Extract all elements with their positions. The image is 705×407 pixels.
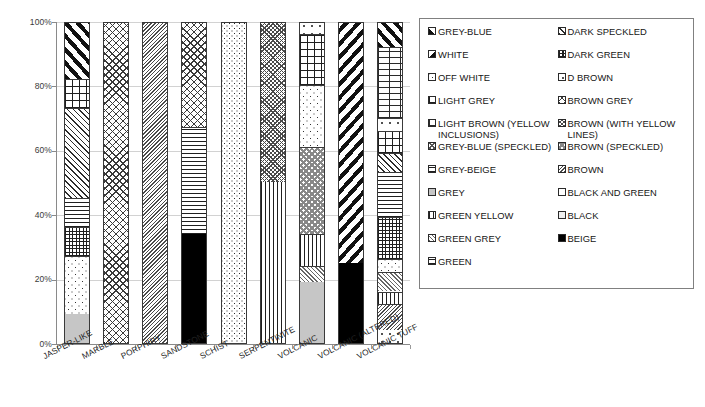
bar-volcanic-altered[interactable] <box>338 22 364 344</box>
legend-item-black-and-green[interactable]: BLACK AND GREEN <box>558 187 688 198</box>
bar-segment[interactable] <box>300 147 324 234</box>
bar-segment[interactable] <box>378 172 402 217</box>
legend-row-spacer <box>428 153 687 164</box>
bar-segment[interactable] <box>300 34 324 86</box>
bar-segment[interactable] <box>378 217 402 259</box>
legend-row-spacer <box>428 199 687 210</box>
bar-marble[interactable] <box>103 22 129 344</box>
bar-porphiry[interactable] <box>142 22 168 344</box>
bar-segment[interactable] <box>261 182 285 343</box>
legend-swatch-icon <box>428 257 436 265</box>
bar-sandstone[interactable] <box>181 22 207 344</box>
legend-item-green-yellow[interactable]: GREEN YELLOW <box>428 210 558 221</box>
legend-item-grey-blue-speckled[interactable]: GREY-BLUE (SPECKLED) <box>428 141 558 152</box>
legend-row-spacer <box>428 61 687 72</box>
bar-segment[interactable] <box>378 292 402 305</box>
legend-item-green[interactable]: GREEN <box>428 256 558 267</box>
legend-item-black[interactable]: BLACK <box>558 210 688 221</box>
bar-segment[interactable] <box>222 22 246 343</box>
legend-row-spacer <box>428 38 687 49</box>
y-tick-label: 0% <box>8 339 52 349</box>
legend-label: DARK GREEN <box>568 49 631 60</box>
legend-item-dark-speckled[interactable]: DARK SPECKLED <box>558 26 688 37</box>
legend-swatch-icon <box>558 142 566 150</box>
bar-volcanic[interactable] <box>299 22 325 344</box>
bar-segment[interactable] <box>378 259 402 272</box>
legend-swatch-icon <box>558 119 566 127</box>
x-tick-mark <box>410 345 411 349</box>
bar-segment[interactable] <box>182 127 206 233</box>
legend-label: OFF WHITE <box>438 72 490 83</box>
legend-item-dark-green[interactable]: DARK GREEN <box>558 49 688 60</box>
legend-item-brown-with-yellow-lines[interactable]: BROWN (WITH YELLOW LINES) <box>558 118 688 140</box>
bar-volcanic-tuff[interactable] <box>377 22 403 344</box>
legend-swatch-icon <box>428 188 436 196</box>
bar-segment[interactable] <box>104 22 128 343</box>
legend-row: LIGHT GREYBROWN GREY <box>428 95 687 106</box>
legend-item-brown-grey[interactable]: BROWN GREY <box>558 95 688 106</box>
bar-segment[interactable] <box>339 22 363 263</box>
bar-segment[interactable] <box>261 22 285 182</box>
legend-row: OFF WHITED BROWN <box>428 72 687 83</box>
bar-schist[interactable] <box>221 22 247 344</box>
legend-item-grey-blue[interactable]: GREY-BLUE <box>428 26 558 37</box>
bar-segment[interactable] <box>300 234 324 266</box>
legend-label: LIGHT BROWN (YELLOW INCLUSIONS) <box>438 118 558 140</box>
legend-item-brown[interactable]: BROWN <box>558 164 688 175</box>
y-tick-label: 20% <box>8 274 52 284</box>
legend-item-beige[interactable]: BEIGE <box>558 233 688 244</box>
bar-segment[interactable] <box>65 22 89 79</box>
legend-swatch-icon <box>428 142 436 150</box>
legend-row: WHITEDARK GREEN <box>428 49 687 60</box>
legend-row: GREYBLACK AND GREEN <box>428 187 687 198</box>
bar-segment[interactable] <box>65 108 89 198</box>
bar-segment[interactable] <box>65 256 89 314</box>
legend-item-d-brown[interactable]: D BROWN <box>558 72 688 83</box>
legend-label: BLACK AND GREEN <box>568 187 657 198</box>
legend-label: GREY-BLUE <box>438 26 492 37</box>
bar-segment[interactable] <box>182 234 206 343</box>
legend-item-off-white[interactable]: OFF WHITE <box>428 72 558 83</box>
legend-label: GREY-BLUE (SPECKLED) <box>438 141 551 152</box>
legend-label: D BROWN <box>568 72 614 83</box>
legend-row: GREY-BLUEDARK SPECKLED <box>428 26 687 37</box>
bar-segment[interactable] <box>378 131 402 154</box>
legend-label: WHITE <box>438 49 468 60</box>
legend-row: GREEN YELLOWBLACK <box>428 210 687 221</box>
legend-swatch-icon <box>558 27 566 35</box>
legend-item-grey[interactable]: GREY <box>428 187 558 198</box>
legend-label: BLACK <box>568 210 599 221</box>
bar-segment[interactable] <box>143 22 167 343</box>
bar-segment[interactable] <box>378 118 402 131</box>
bar-segment[interactable] <box>378 47 402 118</box>
legend-swatch-icon <box>558 73 566 81</box>
bar-serpentinite[interactable] <box>260 22 286 344</box>
bar-segment[interactable] <box>378 22 402 47</box>
plot-area <box>57 22 410 344</box>
bar-jasper-like[interactable] <box>64 22 90 344</box>
legend-label: GREY <box>438 187 465 198</box>
legend-item-light-brown-yellow-inclusions[interactable]: LIGHT BROWN (YELLOW INCLUSIONS) <box>428 118 558 140</box>
bar-segment[interactable] <box>300 22 324 34</box>
legend-swatch-icon <box>428 73 436 81</box>
legend-label: BROWN (SPECKLED) <box>568 141 664 152</box>
bar-segment[interactable] <box>65 79 89 108</box>
legend-row-spacer <box>428 222 687 233</box>
legend-label: BROWN (WITH YELLOW LINES) <box>568 118 688 140</box>
legend-swatch-icon <box>428 165 436 173</box>
legend-swatch-icon <box>558 96 566 104</box>
bar-segment[interactable] <box>378 153 402 172</box>
bar-segment[interactable] <box>182 22 206 127</box>
legend-swatch-icon <box>428 27 436 35</box>
legend-item-green-grey[interactable]: GREEN GREY <box>428 233 558 244</box>
legend-item-white[interactable]: WHITE <box>428 49 558 60</box>
bar-segment[interactable] <box>65 227 89 256</box>
legend-box: GREY-BLUEDARK SPECKLEDWHITEDARK GREENOFF… <box>419 18 694 289</box>
bar-segment[interactable] <box>300 85 324 146</box>
bar-segment[interactable] <box>65 198 89 227</box>
legend-item-brown-speckled[interactable]: BROWN (SPECKLED) <box>558 141 688 152</box>
legend-item-light-grey[interactable]: LIGHT GREY <box>428 95 558 106</box>
bar-segment[interactable] <box>300 266 324 282</box>
bar-segment[interactable] <box>378 272 402 291</box>
legend-item-grey-beige[interactable]: GREY-BEIGE <box>428 164 558 175</box>
